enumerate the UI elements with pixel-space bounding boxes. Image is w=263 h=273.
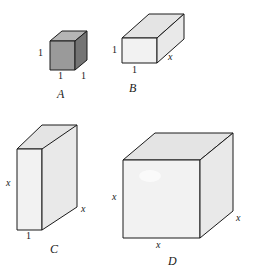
shape-a-height-label: 1 — [38, 48, 43, 58]
shape-d-cube — [123, 133, 233, 238]
shape-d-height-label: x — [112, 192, 116, 202]
shape-c-front-face — [17, 149, 42, 230]
shape-b-front-face — [122, 38, 157, 63]
shape-b-width-label: 1 — [132, 65, 137, 75]
shape-c-width-label: 1 — [26, 231, 31, 241]
shape-b-name-label: B — [129, 82, 136, 94]
shape-d-front-face — [123, 160, 200, 238]
shape-d-name-label: D — [168, 255, 177, 267]
shape-a-front-face — [50, 41, 75, 70]
shape-c-depth-label: x — [81, 204, 85, 214]
solids-figure — [0, 0, 263, 273]
shape-b-height-label: 1 — [112, 45, 117, 55]
shape-a-depth-label: 1 — [81, 71, 86, 81]
shape-d-depth-label: x — [236, 213, 240, 223]
shape-d-highlight — [139, 170, 161, 182]
shape-d-width-label: x — [156, 240, 160, 250]
shape-a-cube — [50, 31, 87, 70]
shape-c-height-label: x — [6, 178, 10, 188]
shape-c-name-label: C — [50, 243, 58, 255]
shape-a-name-label: A — [57, 88, 64, 100]
shape-b-depth-label: x — [168, 52, 172, 62]
shape-a-width-label: 1 — [58, 71, 63, 81]
